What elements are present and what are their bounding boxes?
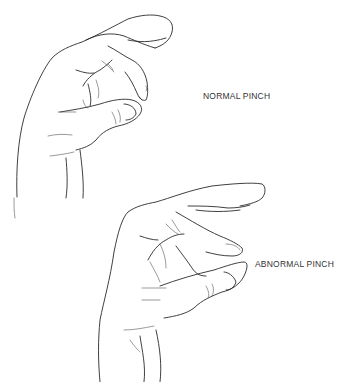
normal-pinch-hand-drawing [17, 15, 173, 198]
normal-pinch-label: NORMAL PINCH [203, 91, 270, 101]
pinch-comparison-figure: NORMAL PINCH ABNORMAL PINCH [0, 0, 343, 382]
abnormal-pinch-hand-drawing [99, 183, 266, 382]
abnormal-pinch-label: ABNORMAL PINCH [255, 259, 334, 269]
hand-drawings [0, 0, 343, 382]
